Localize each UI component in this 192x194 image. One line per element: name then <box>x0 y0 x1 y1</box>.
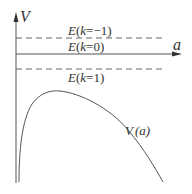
x-axis-label: a <box>173 36 181 53</box>
level-label-k-0: E(k=0) <box>67 39 104 54</box>
level-label-k-1: E(k=1) <box>67 70 104 85</box>
y-axis-label: V <box>20 8 32 25</box>
y-axis-arrow-icon <box>14 12 19 22</box>
level-label-k-minus1: E(k=−1) <box>67 23 112 38</box>
potential-diagram: V a E(k=−1) E(k=0) E(k=1) V(a) <box>0 0 192 194</box>
curve-label: V(a) <box>125 123 150 138</box>
